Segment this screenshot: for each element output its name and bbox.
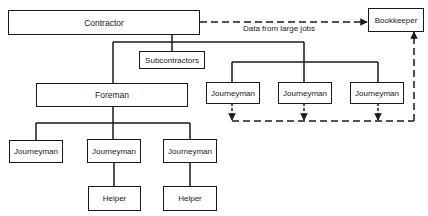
journeyman-label: Journeyman (283, 89, 327, 98)
bookkeeper-label: Bookkeeper (375, 16, 418, 25)
bookkeeper-box[interactable]: Bookkeeper (368, 8, 424, 32)
journeyman-right-1[interactable]: Journeyman (206, 82, 260, 104)
helper-box-1[interactable]: Helper (88, 186, 141, 211)
contractor-box[interactable]: Contractor (8, 10, 200, 35)
journeyman-label: Journeyman (14, 147, 58, 156)
contractor-label: Contractor (84, 18, 124, 28)
journeyman-right-2[interactable]: Journeyman (278, 82, 332, 104)
foreman-label: Foreman (95, 90, 129, 100)
subcontractors-label: Subcontractors (145, 56, 199, 65)
journeyman-label: Journeyman (92, 147, 136, 156)
helper-box-2[interactable]: Helper (163, 186, 217, 211)
helper-label: Helper (103, 194, 127, 203)
journeyman-bottom-3[interactable]: Journeyman (163, 139, 217, 163)
subcontractors-box[interactable]: Subcontractors (139, 51, 205, 69)
helper-label: Helper (178, 194, 202, 203)
foreman-box[interactable]: Foreman (36, 83, 188, 107)
journeyman-right-3[interactable]: Journeyman (350, 82, 404, 104)
journeyman-bottom-1[interactable]: Journeyman (9, 140, 63, 163)
journeyman-bottom-2[interactable]: Journeyman (87, 139, 141, 163)
journeyman-label: Journeyman (355, 89, 399, 98)
data-flow-label: Data from large jobs (243, 24, 315, 33)
journeyman-label: Journeyman (211, 89, 255, 98)
journeyman-label: Journeyman (168, 147, 212, 156)
